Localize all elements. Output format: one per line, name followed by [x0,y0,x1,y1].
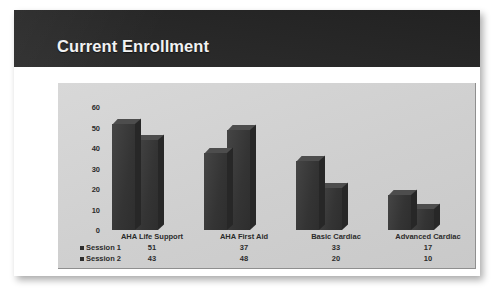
page-title: Current Enrollment [57,37,209,56]
bar-session-1 [204,153,227,230]
table-row: Session 151373317 [58,242,475,253]
bar-front-face [296,161,319,230]
y-axis-tick: 60 [66,103,100,112]
chart-plot-area: 0102030405060 AHA Life SupportAHA First … [58,83,475,268]
table-cell: 48 [195,253,293,264]
bar-front-face [388,195,411,230]
y-axis-tick: 30 [66,164,100,173]
chart-data-table: Session 151373317Session 243482010 [58,242,475,266]
y-axis-tick: 10 [66,205,100,214]
category-label: Basic Cardiac [287,232,385,241]
bar-side-face [227,147,233,230]
bar-side-face [250,124,256,230]
category-label: AHA Life Support [103,232,201,241]
bar-side-face [342,183,348,230]
table-cell: 37 [195,242,293,253]
slide-canvas: Current Enrollment 0102030405060 AHA Lif… [0,0,493,289]
category-label: Advanced Cardiac [379,232,477,241]
bar-group [112,105,204,230]
y-axis-tick: 40 [66,144,100,153]
y-axis-tick: 20 [66,185,100,194]
table-cell: 20 [287,253,385,264]
table-cell: 17 [379,242,477,253]
chart-panel: 0102030405060 AHA Life SupportAHA First … [58,83,476,269]
bar-group [388,105,480,230]
y-axis-tick: 50 [66,123,100,132]
bar-side-face [411,189,417,230]
table-cell: 43 [103,253,201,264]
table-cell: 33 [287,242,385,253]
presentation-slide: Current Enrollment 0102030405060 AHA Lif… [14,10,480,276]
table-cell: 51 [103,242,201,253]
bar-session-1 [388,195,411,230]
bar-front-face [204,153,227,230]
table-cell: 10 [379,253,477,264]
legend-swatch-icon [80,257,84,261]
bar-side-face [434,204,440,230]
category-label: AHA First Aid [195,232,293,241]
bar-session-1 [296,161,319,230]
bar-group [204,105,296,230]
y-axis: 0102030405060 [66,107,100,230]
bar-front-face [112,124,135,230]
y-axis-tick: 0 [66,226,100,235]
bar-side-face [135,118,141,230]
bar-side-face [319,156,325,230]
bar-session-1 [112,124,135,230]
bar-side-face [158,135,164,230]
table-row: Session 243482010 [58,253,475,264]
bar-group [296,105,388,230]
legend-swatch-icon [80,246,84,250]
